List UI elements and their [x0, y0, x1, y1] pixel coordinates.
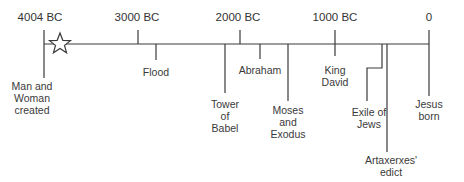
event-label-flood: Flood: [143, 66, 169, 78]
event-label-moses-exodus: Moses and Exodus: [270, 104, 305, 140]
star-icon: [50, 33, 71, 53]
tick-label-4004bc: 4004 BC: [18, 11, 63, 23]
event-label-artaxerxes: Artaxerxes' edict: [365, 154, 417, 178]
tick-label-0: 0: [426, 11, 432, 23]
event-label-tower-of-babel: Tower of Babel: [211, 98, 239, 134]
tick-label-2000bc: 2000 BC: [216, 11, 261, 23]
event-label-king-david: King David: [322, 64, 349, 88]
event-label-exile: Exile of Jews: [352, 106, 386, 130]
event-label-creation: Man and Woman created: [12, 80, 53, 116]
tick-label-1000bc: 1000 BC: [313, 11, 358, 23]
exile-line: [367, 44, 382, 101]
event-label-jesus-born: Jesus born: [415, 98, 442, 122]
event-label-abraham: Abraham: [239, 64, 282, 76]
tick-label-3000bc: 3000 BC: [115, 11, 160, 23]
